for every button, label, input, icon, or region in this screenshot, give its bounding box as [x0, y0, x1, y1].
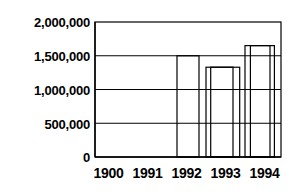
bar-chart: 2,000,000 1,500,000 1,000,000 500,000 0 [0, 0, 294, 192]
x-axis-label-group: 1900 1991 1992 1993 1994 [0, 0, 294, 192]
x-axis-tick-label-1994: 1994 [242, 166, 287, 180]
